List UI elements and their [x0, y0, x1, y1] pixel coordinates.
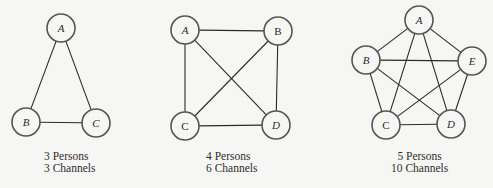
person-node-b: B — [264, 17, 292, 45]
person-node-c: C — [171, 112, 199, 140]
channel-edge-b-d — [276, 45, 277, 111]
node-label: A — [415, 14, 423, 26]
node-label: C — [181, 120, 188, 132]
caption-five-persons: 5 Persons 10 Channels — [391, 150, 448, 174]
node-label: D — [446, 118, 455, 130]
node-label: A — [181, 24, 189, 36]
node-label: E — [468, 55, 476, 67]
channel-edge-a-b — [377, 28, 408, 51]
person-node-e: E — [458, 47, 486, 75]
caption-channels-count: 10 Channels — [391, 162, 448, 174]
node-label: B — [274, 25, 281, 37]
node-label: C — [382, 119, 389, 131]
channel-edge-b-c — [40, 122, 82, 123]
node-label: D — [271, 119, 280, 131]
channel-edge-a-d — [195, 40, 267, 115]
person-node-d: D — [262, 111, 290, 139]
node-label: B — [363, 54, 370, 66]
caption-four-persons: 4 Persons 6 Channels — [206, 150, 257, 174]
person-node-c: C — [82, 109, 110, 137]
caption-three-persons: 3 Persons 3 Channels — [44, 150, 95, 174]
caption-persons-count: 3 Persons — [44, 150, 95, 162]
person-node-a: A — [47, 14, 75, 42]
caption-persons-count: 5 Persons — [391, 150, 448, 162]
node-label: C — [92, 117, 100, 129]
node-label: B — [23, 116, 30, 128]
channel-edge-a-c — [66, 41, 91, 110]
caption-persons-count: 4 Persons — [206, 150, 257, 162]
channel-edge-a-b — [31, 41, 56, 109]
caption-channels-count: 3 Channels — [44, 162, 95, 174]
channel-edge-a-e — [430, 29, 461, 53]
person-node-a: A — [171, 16, 199, 44]
channel-edge-c-d — [400, 124, 437, 125]
channel-edge-a-b — [199, 30, 264, 31]
channel-edge-c-d — [199, 125, 262, 126]
caption-channels-count: 6 Channels — [206, 162, 257, 174]
node-label: A — [57, 22, 65, 34]
person-node-b: B — [352, 46, 380, 74]
person-node-b: B — [12, 108, 40, 136]
channel-edge-d-e — [455, 74, 467, 110]
person-node-a: A — [405, 6, 433, 34]
channel-edge-b-c — [370, 73, 382, 111]
nodes-layer: ABCABCDABECD — [12, 6, 486, 140]
person-node-d: D — [437, 110, 465, 138]
person-node-c: C — [372, 111, 400, 139]
channel-edge-a-d — [423, 33, 447, 110]
channel-edge-b-e — [380, 60, 458, 61]
channel-edge-a-c — [390, 33, 415, 111]
